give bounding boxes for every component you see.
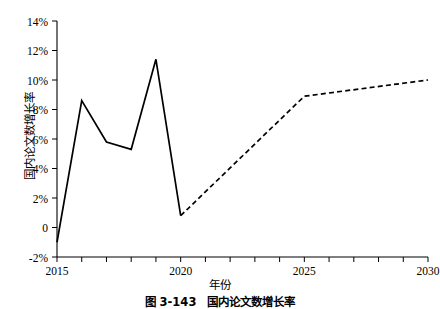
series-historical-line bbox=[57, 59, 181, 242]
y-tick-label: 14% bbox=[27, 16, 49, 28]
x-axis-ticks bbox=[57, 257, 428, 262]
y-axis-ticks bbox=[52, 21, 57, 257]
y-tick-label: 0 bbox=[42, 222, 48, 234]
y-axis-title-wrapper: 国内论文数增长率 bbox=[20, 51, 36, 221]
y-tick-label: -2% bbox=[29, 252, 49, 264]
figure-caption: 图 3-143 国内论文数增长率 bbox=[0, 293, 440, 309]
y-axis-title: 国内论文数增长率 bbox=[23, 92, 37, 180]
x-axis-title: 年份 bbox=[0, 276, 440, 292]
series-forecast-line bbox=[181, 80, 428, 216]
